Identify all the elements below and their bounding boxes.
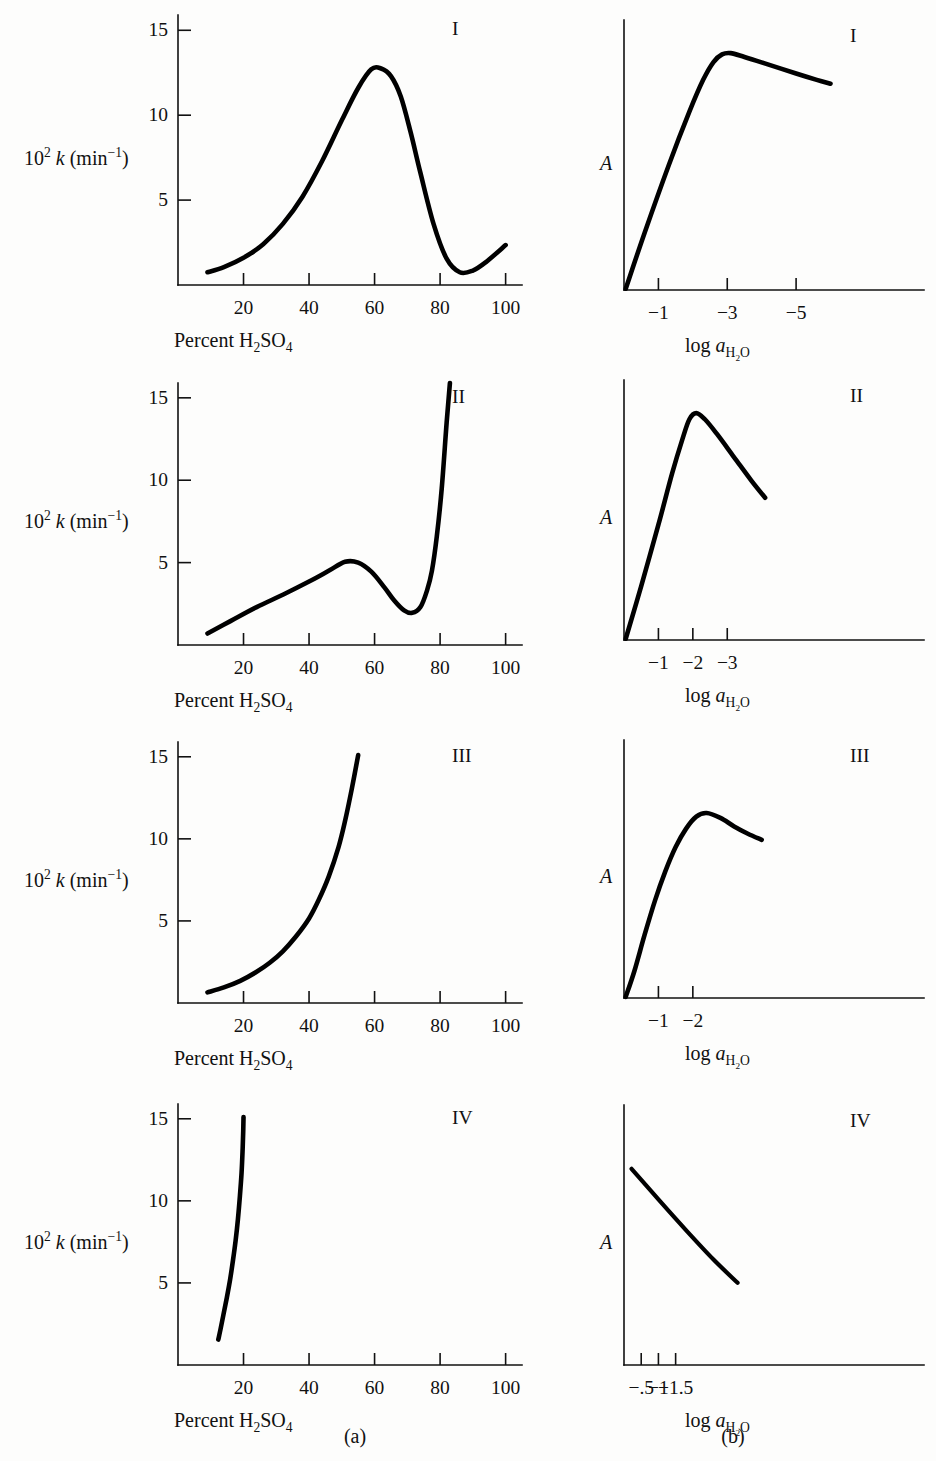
y-tick-label: 15 bbox=[149, 1109, 169, 1129]
panel-roman-numeral: I bbox=[452, 19, 459, 39]
x-tick-label: −1 bbox=[648, 653, 669, 673]
chart-svg bbox=[560, 0, 936, 350]
x-tick-label: 40 bbox=[299, 1016, 319, 1036]
y-tick-label: 15 bbox=[149, 21, 169, 41]
axes bbox=[624, 1105, 924, 1365]
data-curve bbox=[626, 813, 762, 997]
column-caption: (a) bbox=[344, 1426, 366, 1446]
chart-svg bbox=[560, 1060, 936, 1461]
x-tick-label: 80 bbox=[430, 1016, 450, 1036]
y-axis-title: A bbox=[600, 153, 612, 173]
x-tick-label: 40 bbox=[299, 298, 319, 318]
x-tick-label: 20 bbox=[234, 1378, 254, 1398]
x-axis-title: Percent H2SO4 bbox=[0, 690, 293, 710]
x-tick-label: 80 bbox=[430, 1378, 450, 1398]
y-axis-title: A bbox=[600, 1232, 612, 1252]
panel-roman-numeral: IV bbox=[850, 1111, 871, 1131]
x-tick-label: 60 bbox=[365, 298, 385, 318]
chart-panel-a-I: 2040608010051015Percent H2SO4102 k (min−… bbox=[0, 0, 560, 350]
x-tick-label: 100 bbox=[491, 298, 520, 318]
x-tick-label: −1 bbox=[648, 303, 669, 323]
x-tick-label: 60 bbox=[365, 1378, 385, 1398]
chart-svg bbox=[560, 350, 936, 710]
axes bbox=[178, 1104, 522, 1365]
chart-svg bbox=[560, 710, 936, 1060]
axes bbox=[178, 15, 522, 285]
x-tick-label: 80 bbox=[430, 298, 450, 318]
x-tick-label: 40 bbox=[299, 658, 319, 678]
chart-svg bbox=[0, 1060, 560, 1461]
x-tick-label: 60 bbox=[365, 658, 385, 678]
x-axis-title: log aH2O bbox=[560, 685, 750, 708]
data-curve bbox=[632, 1169, 738, 1283]
data-curve bbox=[207, 755, 358, 992]
y-axis-title: A bbox=[600, 866, 612, 886]
x-tick-label: −2 bbox=[682, 1011, 703, 1031]
chart-svg bbox=[0, 0, 560, 350]
x-tick-label: −3 bbox=[717, 303, 738, 323]
y-tick-label: 5 bbox=[158, 1273, 168, 1293]
x-tick-label: 80 bbox=[430, 658, 450, 678]
panel-roman-numeral: II bbox=[452, 387, 465, 407]
column-caption: (b) bbox=[721, 1426, 744, 1446]
y-tick-label: 10 bbox=[149, 470, 169, 490]
y-axis-title: 102 k (min−1) bbox=[24, 148, 129, 168]
y-tick-label: 10 bbox=[149, 1191, 169, 1211]
chart-panel-b-II: −1−2−3log aH2OAII bbox=[560, 350, 936, 710]
x-tick-label: 20 bbox=[234, 1016, 254, 1036]
data-curve bbox=[626, 413, 765, 639]
chart-panel-a-IV: 2040608010051015Percent H2SO4102 k (min−… bbox=[0, 1060, 560, 1461]
panel-roman-numeral: III bbox=[452, 746, 471, 766]
y-axis-title: 102 k (min−1) bbox=[24, 511, 129, 531]
x-tick-label: 100 bbox=[491, 1016, 520, 1036]
y-tick-label: 10 bbox=[149, 105, 169, 125]
figure-root: 2040608010051015Percent H2SO4102 k (min−… bbox=[0, 0, 936, 1461]
x-tick-label: −2 bbox=[682, 653, 703, 673]
x-tick-label: −3 bbox=[717, 653, 738, 673]
axes bbox=[624, 380, 924, 640]
x-tick-label: 20 bbox=[234, 658, 254, 678]
chart-panel-b-IV: −.5−1−1.5log aH2OAIV bbox=[560, 1060, 936, 1461]
x-tick-label: 100 bbox=[491, 658, 520, 678]
axes bbox=[178, 383, 522, 645]
chart-panel-b-I: −1−3−5log aH2OAI bbox=[560, 0, 936, 350]
x-tick-label: 60 bbox=[365, 1016, 385, 1036]
x-tick-label: −5 bbox=[786, 303, 807, 323]
y-tick-label: 5 bbox=[158, 553, 168, 573]
chart-panel-a-III: 2040608010051015Percent H2SO4102 k (min−… bbox=[0, 710, 560, 1060]
y-tick-label: 5 bbox=[158, 190, 168, 210]
x-axis-title: Percent H2SO4 bbox=[0, 1410, 293, 1430]
y-tick-label: 5 bbox=[158, 911, 168, 931]
y-tick-label: 10 bbox=[149, 829, 169, 849]
axes bbox=[624, 20, 924, 290]
x-tick-label: 40 bbox=[299, 1378, 319, 1398]
panel-roman-numeral: I bbox=[850, 26, 857, 46]
y-tick-label: 15 bbox=[149, 747, 169, 767]
x-tick-label: −1.5 bbox=[658, 1378, 693, 1398]
panel-roman-numeral: III bbox=[850, 746, 869, 766]
x-axis-title: Percent H2SO4 bbox=[0, 330, 293, 350]
y-axis-title: 102 k (min−1) bbox=[24, 1232, 129, 1252]
data-curve bbox=[218, 1117, 243, 1339]
data-curve bbox=[207, 383, 449, 633]
axes bbox=[624, 740, 924, 998]
data-curve bbox=[207, 67, 505, 273]
panel-roman-numeral: II bbox=[850, 386, 863, 406]
data-curve bbox=[626, 53, 831, 289]
panel-roman-numeral: IV bbox=[452, 1108, 473, 1128]
y-axis-title: A bbox=[600, 507, 612, 527]
chart-panel-a-II: 2040608010051015Percent H2SO4102 k (min−… bbox=[0, 350, 560, 710]
axes bbox=[178, 742, 522, 1003]
chart-panel-b-III: −1−2log aH2OAIII bbox=[560, 710, 936, 1060]
y-tick-label: 15 bbox=[149, 388, 169, 408]
x-tick-label: −1 bbox=[648, 1011, 669, 1031]
x-tick-label: 20 bbox=[234, 298, 254, 318]
y-axis-title: 102 k (min−1) bbox=[24, 870, 129, 890]
x-tick-label: 100 bbox=[491, 1378, 520, 1398]
